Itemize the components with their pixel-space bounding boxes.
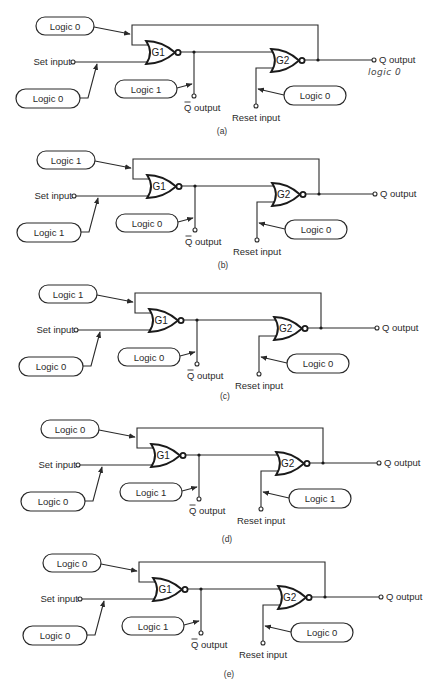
arrow-icon — [81, 198, 98, 232]
reset-input-label: Reset input — [237, 515, 285, 526]
reset-input-label: Reset input — [239, 649, 287, 660]
arrow-icon — [258, 89, 284, 95]
diagram-caption: (d) — [222, 534, 233, 544]
reset-input-terminal — [255, 238, 259, 242]
q-output-terminal — [373, 192, 377, 196]
qbar-junction-dot — [199, 587, 202, 590]
latch-diagram-a: G1G2Logic 0Logic 0Logic 1Logic 0Set inpu… — [16, 17, 416, 136]
reset-value-pill: Logic 0 — [285, 220, 347, 239]
set-input-value-pill-text: Logic 0 — [38, 496, 69, 507]
set-input-value-pill: Logic 0 — [19, 357, 83, 376]
gate-g1-nor: G1 — [147, 175, 182, 198]
gate-g1-nor-label: G1 — [153, 181, 167, 192]
qbar-value-pill-text: Logic 0 — [134, 352, 165, 363]
feedback-input-value-pill: Logic 0 — [43, 554, 101, 572]
arrow-icon — [87, 601, 104, 635]
gate-g2-nor: G2 — [272, 183, 306, 206]
qbar-value-pill-text: Logic 0 — [132, 218, 163, 229]
q-output-label: Q output — [384, 457, 421, 468]
qbar-value-pill: Logic 1 — [120, 483, 182, 501]
feedback-input-value-pill-text: Logic 0 — [57, 558, 88, 569]
set-input-terminal — [71, 60, 75, 64]
gate-g2-nor: G2 — [276, 452, 310, 475]
arrow-icon — [94, 27, 130, 34]
gate-g2-nor: G2 — [271, 49, 305, 72]
qbar-junction-dot — [197, 453, 200, 456]
reset-value-pill: Logic 1 — [289, 489, 351, 508]
arrow-icon — [182, 487, 197, 491]
feedback-input-value-pill: Logic 1 — [39, 285, 97, 303]
reset-value-pill-text: Logic 0 — [307, 627, 338, 638]
set-input-value-pill-text: Logic 0 — [33, 93, 64, 104]
qbar-output-terminal — [197, 497, 201, 501]
reset-value-pill-text: Logic 0 — [301, 224, 332, 235]
arrow-icon — [80, 64, 97, 98]
gate-g1-nor-label: G1 — [159, 584, 173, 595]
q-junction-dot — [321, 461, 324, 464]
arrow-icon — [178, 218, 193, 222]
feedback-input-value-pill: Logic 0 — [41, 420, 99, 438]
qbar-value-pill: Logic 1 — [122, 617, 184, 635]
reset-input-terminal — [257, 372, 261, 376]
arrow-icon — [101, 564, 137, 571]
nor-latch-figure: G1G2Logic 0Logic 0Logic 1Logic 0Set inpu… — [0, 0, 443, 691]
gate-g1-nor-inversion-bubble — [182, 587, 187, 592]
qbar-value-pill-text: Logic 1 — [131, 84, 162, 95]
set-input-terminal — [74, 328, 78, 332]
q-output-terminal — [377, 461, 381, 465]
set-input-value-pill-text: Logic 0 — [40, 630, 71, 641]
gate-g1-nor-label: G1 — [157, 450, 171, 461]
gate-g2-nor-label: G2 — [283, 592, 297, 603]
set-input-label: Set input — [35, 190, 73, 201]
q-output-terminal — [372, 58, 376, 62]
arrow-icon — [263, 492, 289, 498]
set-input-value-pill-text: Logic 1 — [34, 227, 65, 238]
latch-diagram-d: G1G2Logic 0Logic 0Logic 1Logic 1Set inpu… — [21, 420, 421, 544]
q-junction-dot — [316, 58, 319, 61]
reset-input-terminal — [259, 507, 263, 511]
q-output-label: Q output — [386, 591, 423, 602]
gate-g1-nor: G1 — [153, 578, 188, 601]
gate-g1-nor-inversion-bubble — [176, 184, 181, 189]
qbar-value-pill: Logic 0 — [118, 348, 180, 366]
gate-g1-nor: G1 — [149, 309, 184, 332]
arrow-icon — [265, 626, 291, 632]
reset-input-terminal — [261, 641, 265, 645]
feedback-input-value-pill-text: Logic 0 — [50, 21, 81, 32]
arrow-icon — [180, 352, 195, 356]
gate-g1-nor-label: G1 — [152, 47, 166, 58]
gate-g2-nor-label: G2 — [276, 55, 290, 66]
gate-g1-nor-label: G1 — [155, 315, 169, 326]
qbar-output-label: Q output — [187, 370, 224, 381]
arrow-icon — [259, 223, 285, 229]
gate-g2-nor-label: G2 — [281, 458, 295, 469]
gate-g1-nor-inversion-bubble — [180, 453, 185, 458]
reset-input-wire — [256, 68, 274, 104]
feedback-input-value-pill: Logic 1 — [37, 151, 95, 169]
diagram-caption: (e) — [224, 669, 235, 679]
reset-value-pill-text: Logic 0 — [303, 358, 334, 369]
arrow-icon — [261, 357, 287, 363]
q-output-label: Q output — [380, 188, 417, 199]
qbar-junction-dot — [195, 318, 198, 321]
set-input-label: Set input — [41, 593, 79, 604]
latch-diagram-e: G1G2Logic 0Logic 0Logic 1Logic 0Set inpu… — [23, 554, 423, 679]
q-junction-dot — [319, 326, 322, 329]
qbar-output-terminal — [192, 94, 196, 98]
reset-input-wire — [259, 336, 277, 372]
set-input-value-pill: Logic 0 — [21, 492, 85, 511]
qbar-output-label: Q output — [184, 102, 221, 113]
set-input-value-pill: Logic 0 — [16, 89, 80, 108]
qbar-value-pill-text: Logic 1 — [138, 621, 169, 632]
set-input-value-pill: Logic 1 — [17, 223, 81, 242]
arrow-icon — [85, 467, 102, 501]
reset-value-pill-text: Logic 1 — [305, 493, 336, 504]
gate-g2-nor: G2 — [278, 586, 312, 609]
feedback-input-value-pill-text: Logic 1 — [53, 289, 84, 300]
reset-input-label: Reset input — [232, 112, 280, 123]
gate-g1-nor-inversion-bubble — [175, 50, 180, 55]
set-input-value-pill-text: Logic 0 — [36, 361, 67, 372]
set-input-label: Set input — [39, 459, 77, 470]
reset-input-terminal — [254, 104, 258, 108]
qbar-value-pill: Logic 0 — [116, 214, 178, 232]
